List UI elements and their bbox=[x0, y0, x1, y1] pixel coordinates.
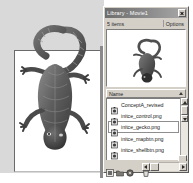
list-item[interactable]: initce_control.png bbox=[108, 110, 179, 121]
column-header-label: Name bbox=[107, 91, 123, 97]
list-item-label: initce_mapbtn.png bbox=[121, 136, 163, 142]
scroll-right-icon[interactable] bbox=[179, 163, 187, 171]
preview-pane[interactable] bbox=[106, 29, 186, 87]
scroll-up-icon[interactable] bbox=[181, 98, 188, 105]
list-item-label: initce_gecko.png bbox=[121, 124, 160, 130]
options-menu-button[interactable]: Options bbox=[166, 21, 187, 27]
list-item-selected[interactable]: initce_gecko.png bbox=[108, 121, 179, 133]
bitmap-icon bbox=[111, 123, 118, 131]
close-icon[interactable] bbox=[178, 9, 186, 17]
list-horizontal-scrollbar[interactable] bbox=[142, 162, 187, 171]
bitmap-icon bbox=[111, 135, 118, 143]
screen: Library - Movie1 5 items Options bbox=[0, 0, 193, 183]
gecko-illustration[interactable] bbox=[18, 12, 90, 152]
column-header-name[interactable]: Name bbox=[106, 89, 186, 98]
new-symbol-icon[interactable] bbox=[106, 163, 114, 171]
new-folder-icon[interactable] bbox=[116, 163, 124, 171]
list-item[interactable]: ConceptA_revised bbox=[108, 99, 179, 110]
list-item[interactable]: initce_shellbtn.png bbox=[108, 144, 179, 155]
properties-icon[interactable] bbox=[126, 163, 134, 171]
bitmap-icon bbox=[111, 146, 118, 154]
stage-backdrop-lower bbox=[0, 173, 193, 183]
scroll-down-icon[interactable] bbox=[181, 115, 188, 122]
library-item-list[interactable]: ConceptA_revised initce_control.png bbox=[106, 98, 180, 160]
info-separator bbox=[163, 20, 164, 27]
item-count-label: 5 items bbox=[105, 21, 124, 27]
scroll-left-icon[interactable] bbox=[142, 163, 150, 171]
bitmap-icon bbox=[111, 112, 118, 120]
movie-clip-icon bbox=[111, 101, 118, 109]
scroll-thumb[interactable] bbox=[181, 106, 188, 115]
panel-title-bar[interactable]: Library - Movie1 bbox=[105, 8, 187, 18]
panel-title: Library - Movie1 bbox=[105, 10, 178, 16]
gecko-thumbnail bbox=[132, 35, 163, 83]
h-scroll-thumb[interactable] bbox=[150, 163, 159, 171]
list-item-label: initce_control.png bbox=[121, 113, 162, 119]
list-item-label: initce_shellbtn.png bbox=[121, 147, 164, 153]
sort-ascending-icon[interactable] bbox=[179, 92, 183, 95]
list-vertical-scrollbar[interactable] bbox=[180, 98, 187, 160]
list-item[interactable]: initce_mapbtn.png bbox=[108, 133, 179, 144]
h-scroll-track[interactable] bbox=[159, 162, 179, 171]
scroll-track[interactable] bbox=[181, 122, 188, 159]
panel-info-bar: 5 items Options bbox=[105, 19, 187, 28]
library-panel[interactable]: Library - Movie1 5 items Options bbox=[103, 6, 189, 173]
list-item-label: ConceptA_revised bbox=[121, 102, 163, 108]
